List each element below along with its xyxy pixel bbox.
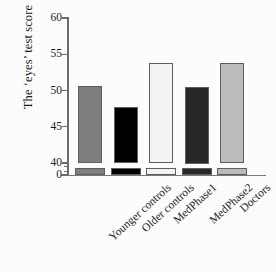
bar-4[interactable]	[185, 87, 209, 164]
y-tick-40	[62, 162, 68, 163]
bar-foot-4	[182, 168, 212, 175]
axis-break-gap-1	[74, 164, 106, 169]
plot-area: 60555045400 Younger controlsOlder contro…	[0, 0, 276, 272]
bar-chart: The ‘eyes’ test score 60555045400 Younge…	[0, 0, 276, 272]
bar-foot-3	[146, 168, 176, 175]
y-tick-55	[62, 54, 68, 55]
axis-break-gap-4	[181, 164, 213, 169]
y-tick-label-55: 55	[32, 48, 62, 59]
y-tick-label-50: 50	[32, 85, 62, 96]
bar-1[interactable]	[78, 86, 102, 163]
axis-break-gap-2	[110, 164, 142, 169]
axis-break-gap-3	[145, 164, 177, 169]
y-tick-50	[62, 90, 68, 91]
bar-foot-1	[75, 168, 105, 175]
y-axis-line	[67, 17, 69, 176]
y-tick-label-0: 0	[32, 169, 62, 180]
bar-foot-2	[111, 168, 141, 175]
axis-break-mark-upper	[64, 166, 69, 167]
bar-2[interactable]	[114, 107, 138, 163]
bar-3[interactable]	[149, 63, 173, 164]
y-tick-label-45: 45	[32, 121, 62, 132]
axis-break-gap-5	[216, 164, 248, 169]
y-tick-45	[62, 126, 68, 127]
y-tick-label-40: 40	[32, 157, 62, 168]
axis-break-mark-lower	[64, 171, 69, 172]
bar-foot-5	[217, 168, 247, 175]
bar-5[interactable]	[220, 63, 244, 164]
y-tick-label-60: 60	[32, 12, 62, 23]
y-tick-0	[62, 174, 68, 175]
x-axis-line	[61, 175, 266, 176]
y-tick-60	[62, 17, 68, 18]
